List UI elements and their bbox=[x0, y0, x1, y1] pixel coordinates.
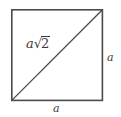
square-root-icon: √2 bbox=[34, 36, 51, 50]
radicand-value: 2 bbox=[41, 36, 50, 50]
geometry-figure: a√2 a a bbox=[0, 0, 121, 117]
diagonal-coefficient: a bbox=[26, 36, 34, 51]
diagonal-length-label: a√2 bbox=[26, 36, 50, 50]
bottom-side-length-label: a bbox=[53, 103, 60, 114]
right-side-length-label: a bbox=[107, 52, 114, 63]
square-diagram-svg bbox=[0, 0, 121, 117]
diagonal-line bbox=[12, 10, 103, 101]
